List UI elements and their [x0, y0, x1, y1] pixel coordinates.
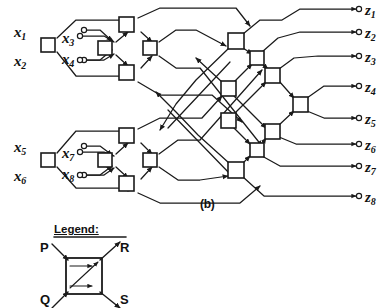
figure-container: x1 x2 x3 x4 x5 x6 x7 x8 z1 z2 z3 z4 z5 z… — [0, 0, 389, 308]
output-label-z8: z8 — [365, 189, 375, 207]
wire-c3-c4 — [141, 167, 152, 179]
wire-e3-z5 — [307, 111, 356, 118]
switch-node — [250, 143, 264, 157]
switch-node — [41, 38, 55, 52]
switch-node — [41, 153, 55, 167]
input-terminal — [81, 143, 86, 148]
legend-terminal-s: S — [120, 292, 129, 307]
switch-node-group — [41, 17, 308, 191]
output-terminal — [356, 115, 361, 120]
output-terminal — [356, 163, 361, 168]
switch-node — [119, 65, 134, 80]
wire-group — [57, 8, 356, 203]
legend-terminal-r: R — [120, 240, 129, 255]
wire-e3-z4 — [307, 86, 356, 98]
switch-node — [228, 33, 244, 49]
switch-node — [265, 68, 280, 83]
input-terminal — [81, 27, 86, 32]
legend-stub-s — [100, 292, 120, 308]
output-label-z1: z1 — [365, 2, 375, 20]
switch-node — [250, 51, 264, 65]
input-label-x8: x8 — [62, 166, 74, 184]
output-label-z4: z4 — [365, 79, 375, 97]
wire-e4-e3 — [279, 111, 294, 125]
figure-caption: (b) — [200, 197, 214, 211]
switch-node — [228, 162, 244, 178]
output-label-z6: z6 — [365, 137, 375, 155]
switch-node — [98, 153, 112, 167]
wire-c2-out — [138, 96, 222, 129]
input-label-x4: x4 — [62, 51, 74, 69]
switch-node — [221, 113, 236, 128]
output-terminal — [356, 193, 361, 198]
output-label-z5: z5 — [365, 111, 375, 129]
output-terminal — [356, 6, 361, 11]
input-label-x2: x2 — [14, 53, 26, 71]
input-terminal — [77, 172, 82, 177]
output-terminal — [356, 29, 361, 34]
output-terminal — [356, 53, 361, 58]
switch-node — [119, 17, 134, 32]
output-label-z2: z2 — [365, 25, 375, 43]
switch-node — [221, 81, 236, 96]
output-label-z7: z7 — [365, 159, 375, 177]
wire-c1-c2 — [116, 143, 128, 154]
input-terminal — [77, 149, 82, 154]
wire-d2-e2 — [234, 96, 266, 128]
wire-e5-z7 — [262, 156, 356, 166]
wire-b2-out — [138, 8, 250, 26]
input-label-x5: x5 — [14, 139, 26, 157]
input-terminal — [77, 57, 82, 62]
wire-e2-z3 — [279, 56, 356, 69]
legend-graphic — [52, 237, 126, 308]
wire-b4-up — [159, 30, 226, 46]
legend-title: Legend: — [54, 223, 99, 235]
switch-node — [119, 128, 134, 143]
switch-node — [293, 97, 308, 112]
wire-e2-e3 — [279, 81, 294, 98]
legend-stub-r — [100, 242, 120, 260]
wire-c3-out — [138, 186, 260, 203]
wire-e1-z2 — [262, 32, 356, 52]
wire-c4-dn — [159, 167, 228, 180]
switch-node — [98, 41, 112, 55]
wire-e4-z6 — [279, 137, 356, 144]
wire-d3-e5 — [234, 128, 250, 144]
switching-network-diagram — [0, 0, 389, 308]
switch-node — [119, 176, 134, 191]
input-label-x3: x3 — [62, 30, 74, 48]
input-label-x1: x1 — [14, 24, 26, 42]
input-label-x7: x7 — [62, 145, 74, 163]
output-label-z3: z3 — [365, 49, 375, 67]
wire-d2-e1 — [234, 64, 252, 82]
input-label-x6: x6 — [14, 168, 26, 186]
legend-stub-q — [52, 292, 68, 308]
output-terminal — [356, 141, 361, 146]
legend-stub-p — [52, 244, 68, 260]
wire-d3-e4 — [234, 82, 266, 114]
switch-node — [143, 41, 157, 55]
input-terminal — [77, 33, 82, 38]
wire-b1-b2 — [116, 32, 128, 42]
wire-d1-out-top — [243, 9, 356, 34]
output-terminal — [356, 83, 361, 88]
wire-b3-b4 — [141, 56, 152, 68]
legend-terminal-p: P — [40, 240, 49, 255]
switch-node — [265, 124, 280, 139]
legend-terminal-q: Q — [40, 292, 50, 307]
switch-node — [143, 153, 157, 167]
